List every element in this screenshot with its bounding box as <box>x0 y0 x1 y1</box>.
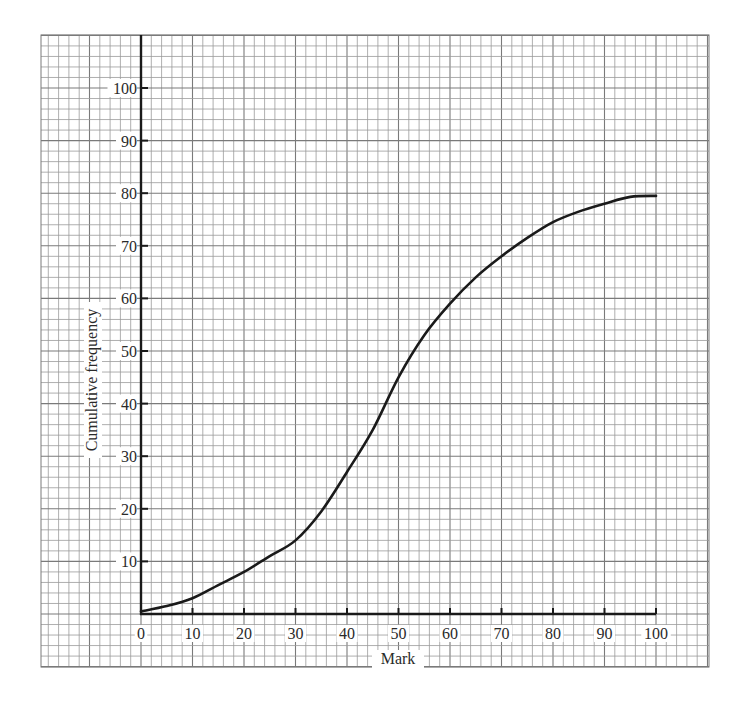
y-tick-label: 50 <box>121 343 137 360</box>
x-tick-label: 80 <box>545 625 561 642</box>
y-tick-label: 100 <box>113 80 137 97</box>
y-tick-label: 30 <box>121 448 137 465</box>
y-axis-label: Cumulative frequency <box>83 309 101 452</box>
x-tick-label: 40 <box>339 625 355 642</box>
y-tick-label: 20 <box>121 501 137 518</box>
x-tick-label: 50 <box>391 625 407 642</box>
x-tick-label: 0 <box>137 625 145 642</box>
x-tick-label: 20 <box>236 625 252 642</box>
x-tick-label: 90 <box>597 625 613 642</box>
x-tick-label: 70 <box>494 625 510 642</box>
y-tick-label: 40 <box>121 396 137 413</box>
x-tick-label: 30 <box>288 625 304 642</box>
cumulative-frequency-chart: 0102030405060708090100102030405060708090… <box>0 0 744 704</box>
y-tick-label: 80 <box>121 185 137 202</box>
x-tick-label: 100 <box>644 625 668 642</box>
y-tick-label: 10 <box>121 553 137 570</box>
y-tick-label: 70 <box>121 238 137 255</box>
x-tick-label: 60 <box>442 625 458 642</box>
y-tick-label: 60 <box>121 290 137 307</box>
chart-canvas: 0102030405060708090100102030405060708090… <box>0 0 744 704</box>
y-tick-label: 90 <box>121 133 137 150</box>
x-tick-label: 10 <box>185 625 201 642</box>
x-axis-label: Mark <box>381 650 416 667</box>
